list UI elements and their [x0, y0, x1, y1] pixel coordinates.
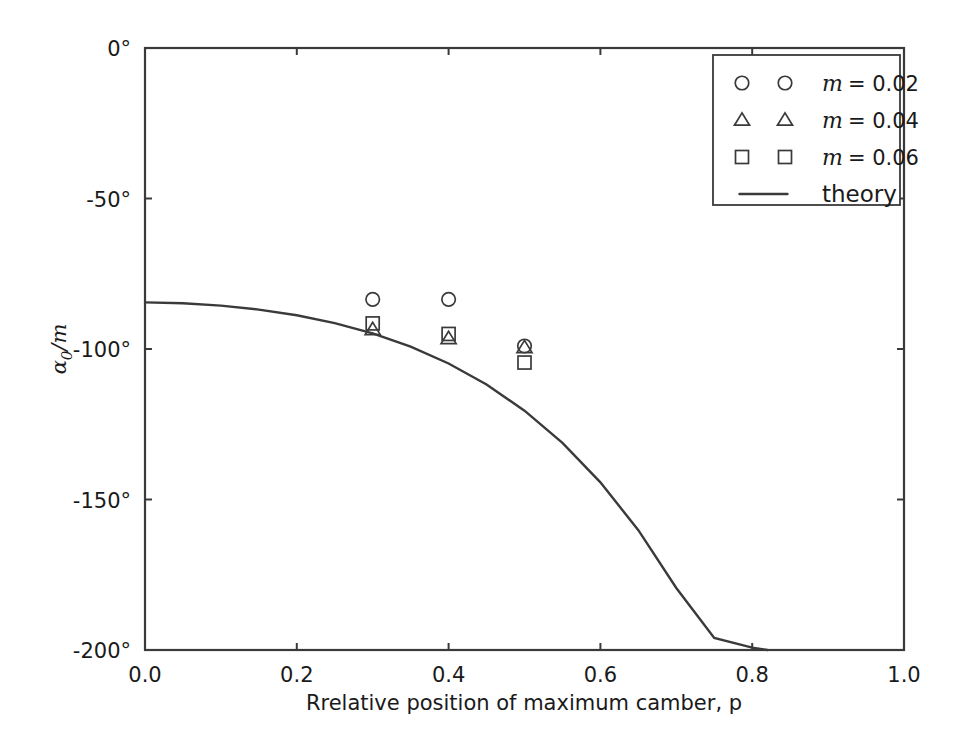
data-point-circle	[366, 293, 380, 307]
chart-plot: 0.00.20.40.60.81.0 0°-50°-100°-150°-200°…	[0, 0, 962, 738]
legend-entry-label: m= 0.02	[822, 71, 919, 96]
svg-text:α0/m: α0/m	[47, 324, 76, 375]
data-point-circle	[442, 293, 456, 307]
y-axis-title: α0/m	[47, 324, 76, 375]
x-tick-label: 1.0	[887, 663, 920, 687]
data-point-square	[518, 356, 531, 369]
theory-curve-line	[145, 302, 767, 650]
y-tick-label: -200°	[73, 639, 131, 663]
y-tick-labels: 0°-50°-100°-150°-200°	[73, 37, 131, 663]
x-tick-label: 0.2	[280, 663, 313, 687]
y-tick-label: -100°	[73, 338, 131, 362]
data-point-triangle	[441, 331, 456, 343]
figure-canvas: 0.00.20.40.60.81.0 0°-50°-100°-150°-200°…	[0, 0, 962, 738]
x-axis-title: Rrelative position of maximum camber, p	[306, 691, 742, 715]
x-tick-labels: 0.00.20.40.60.81.0	[128, 663, 920, 687]
x-tick-label: 0.4	[432, 663, 465, 687]
y-tick-label: -50°	[86, 188, 131, 212]
legend-entry-label: m= 0.06	[822, 145, 919, 170]
svg-text:Rrelative position of maximum: Rrelative position of maximum camber, p	[306, 691, 742, 715]
y-axis-alpha-glyph: α	[47, 360, 71, 374]
legend-entry-label: theory	[822, 181, 897, 207]
x-tick-label: 0.8	[735, 663, 768, 687]
legend: m= 0.02m= 0.04m= 0.06theory	[713, 55, 919, 207]
y-tick-label: -150°	[73, 489, 131, 513]
data-point-markers	[365, 293, 532, 369]
legend-entry-label: m= 0.04	[822, 108, 919, 133]
x-tick-label: 0.6	[584, 663, 617, 687]
x-tick-label: 0.0	[128, 663, 161, 687]
y-tick-label: 0°	[107, 37, 131, 61]
